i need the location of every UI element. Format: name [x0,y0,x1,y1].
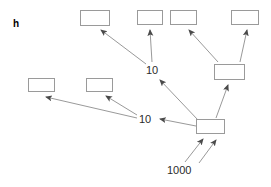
edge-lower10-to-left2 [106,96,137,115]
edge-midright-to-top4 [240,30,247,62]
node-box-left1[interactable] [28,78,55,92]
node-box-top1[interactable] [80,10,110,26]
edge-upper10-to-top2 [150,30,152,62]
panel-label: h [13,19,19,29]
figure-panel: h 10 10 1000 [0,0,271,187]
edge-label-upper-10: 10 [146,65,158,76]
node-box-top2[interactable] [137,10,163,25]
edge-bottom-to-midright [216,85,228,118]
node-box-left2[interactable] [86,78,113,92]
edge-midright-to-top3 [189,30,218,62]
node-box-top3[interactable] [170,10,197,25]
node-box-mid-right[interactable] [214,64,245,80]
node-box-bottom-center[interactable] [196,119,225,134]
edge-lower10-to-left1 [46,97,137,118]
edge-label-lower-10: 10 [139,114,151,125]
edge-root-to-bottom-right [199,140,216,163]
edge-bottom-to-lower10 [160,119,196,126]
edge-root-to-bottom-left [185,139,203,162]
node-box-top4[interactable] [231,10,259,25]
edge-layer [0,0,271,187]
edge-upper10-to-top1 [101,30,146,64]
edge-bottom-to-upper10 [160,80,198,120]
edge-label-root-1000: 1000 [167,165,191,176]
